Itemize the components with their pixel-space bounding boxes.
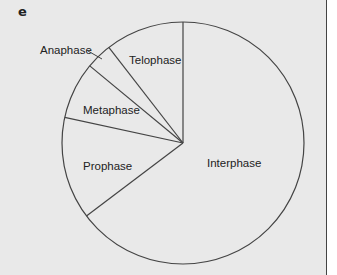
slice-label-metaphase: Metaphase: [83, 104, 140, 116]
slice-label-interphase: Interphase: [207, 157, 261, 169]
slice-label-anaphase: Anaphase: [40, 44, 92, 56]
pie-chart: TelophaseAnaphaseMetaphaseProphaseInterp…: [0, 0, 337, 275]
slice-divider: [65, 117, 183, 143]
slice-divider: [86, 143, 183, 216]
slice-label-telophase: Telophase: [129, 54, 181, 66]
slice-label-prophase: Prophase: [83, 160, 132, 172]
